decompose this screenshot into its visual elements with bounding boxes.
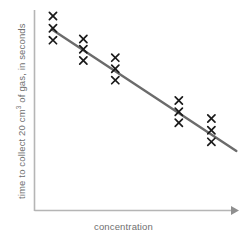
- data-point-marker: [112, 77, 119, 84]
- y-axis-label-superscript: 3: [15, 105, 22, 109]
- y-axis-label-after: of gas, in seconds: [16, 23, 27, 105]
- x-axis-label: concentration: [0, 221, 247, 232]
- y-axis-label: time to collect 20 cm3 of gas, in second…: [16, 23, 27, 199]
- data-markers-group: [49, 12, 215, 145]
- data-point-marker: [80, 57, 87, 64]
- data-point-marker: [208, 115, 215, 122]
- scatter-chart: time to collect 20 cm3 of gas, in second…: [0, 0, 247, 239]
- data-point-marker: [49, 12, 56, 19]
- data-point-marker: [49, 37, 56, 44]
- x-axis-arrowhead: [231, 206, 239, 215]
- y-axis-label-before: time to collect 20 cm: [16, 109, 27, 199]
- data-point-marker: [175, 97, 182, 104]
- axes-group: [35, 10, 240, 215]
- data-point-marker: [208, 138, 215, 145]
- plot-area: [0, 0, 247, 239]
- data-point-marker: [208, 127, 215, 134]
- data-point-marker: [80, 35, 87, 42]
- data-point-marker: [175, 119, 182, 126]
- data-point-marker: [112, 54, 119, 61]
